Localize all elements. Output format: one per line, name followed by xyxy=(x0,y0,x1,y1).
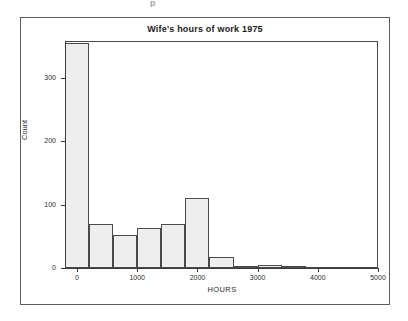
y-tick-mark xyxy=(61,141,65,142)
y-tick-label: 0 xyxy=(30,264,56,271)
x-axis-title: HOURS xyxy=(65,285,379,294)
x-tick-label: 2000 xyxy=(177,274,217,281)
x-tick-label: 0 xyxy=(57,274,97,281)
x-tick-label: 1000 xyxy=(117,274,157,281)
histogram-bar xyxy=(209,257,233,268)
x-tick-label: 3000 xyxy=(238,274,278,281)
x-tick-mark xyxy=(258,268,259,272)
histogram-bar xyxy=(89,224,113,268)
x-tick-mark xyxy=(77,268,78,272)
histogram-bar xyxy=(137,228,161,268)
x-tick-mark xyxy=(378,268,379,272)
x-tick-label: 4000 xyxy=(298,274,338,281)
y-tick-label: 200 xyxy=(30,137,56,144)
figure-canvas: p Wife's hours of work 1975 0100200300 0… xyxy=(0,0,408,321)
y-tick-mark xyxy=(61,205,65,206)
y-tick-mark xyxy=(61,268,65,269)
y-tick-label: 100 xyxy=(30,201,56,208)
histogram-bar xyxy=(161,224,185,268)
histogram-bar xyxy=(185,198,209,268)
histogram-bars xyxy=(0,0,408,321)
y-axis-line xyxy=(65,41,66,269)
x-tick-mark xyxy=(137,268,138,272)
y-axis-title: Count xyxy=(20,120,29,140)
x-tick-mark xyxy=(318,268,319,272)
histogram-bar xyxy=(113,235,137,268)
x-axis-line xyxy=(65,268,379,269)
y-tick-label: 300 xyxy=(30,74,56,81)
x-tick-mark xyxy=(197,268,198,272)
x-tick-label: 5000 xyxy=(358,274,398,281)
y-tick-mark xyxy=(61,78,65,79)
histogram-bar xyxy=(65,43,89,268)
